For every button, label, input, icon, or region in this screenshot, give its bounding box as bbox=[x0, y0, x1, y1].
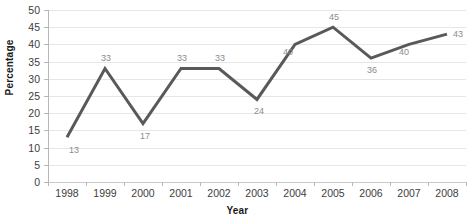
series-polyline bbox=[67, 27, 447, 137]
plot-area bbox=[48, 10, 466, 182]
x-axis-tick-label: 2003 bbox=[238, 188, 276, 199]
x-axis-tick-label: 2005 bbox=[314, 188, 352, 199]
x-axis-tick-label: 2006 bbox=[352, 188, 390, 199]
x-axis-tick-label: 2002 bbox=[200, 188, 238, 199]
x-axis-tick bbox=[466, 182, 467, 186]
y-axis-tick-label: 35 bbox=[14, 57, 40, 68]
x-axis-tick-label: 2000 bbox=[124, 188, 162, 199]
x-axis-tick-label: 2004 bbox=[276, 188, 314, 199]
y-axis-tick-label: 10 bbox=[14, 143, 40, 154]
y-axis-tick-label: 25 bbox=[14, 91, 40, 102]
y-axis-line bbox=[48, 10, 49, 182]
y-axis-tick-label: 50 bbox=[14, 5, 40, 16]
y-axis-tick-label: 0 bbox=[14, 177, 40, 188]
x-axis-tick-label: 2008 bbox=[428, 188, 466, 199]
x-axis-tick-label: 1999 bbox=[86, 188, 124, 199]
y-axis-tick-label: 45 bbox=[14, 22, 40, 33]
x-axis-tick-label: 2007 bbox=[390, 188, 428, 199]
x-axis-tick-label: 2001 bbox=[162, 188, 200, 199]
y-axis-tick-label: 40 bbox=[14, 39, 40, 50]
x-axis-title: Year bbox=[0, 205, 475, 216]
gridline bbox=[48, 182, 466, 183]
line-chart: 0510152025303540455019981999200020012002… bbox=[0, 0, 475, 224]
y-axis-tick-label: 15 bbox=[14, 125, 40, 136]
y-axis-title: Percentage bbox=[4, 13, 15, 123]
y-axis-tick-label: 30 bbox=[14, 74, 40, 85]
x-axis-tick-label: 1998 bbox=[48, 188, 86, 199]
y-axis-tick-label: 20 bbox=[14, 108, 40, 119]
y-axis-tick-label: 5 bbox=[14, 160, 40, 171]
series-line bbox=[48, 10, 466, 182]
